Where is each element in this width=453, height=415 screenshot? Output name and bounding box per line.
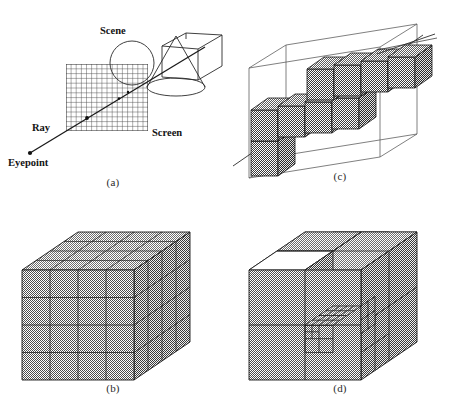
voxel-group-upper <box>307 45 432 100</box>
sphere-hit-dot <box>118 97 120 99</box>
panel-a-caption: (a) <box>0 176 226 188</box>
panel-d-octree-subdivision: (d) <box>227 200 453 415</box>
label-eyepoint: Eyepoint <box>8 157 49 168</box>
scene-box <box>162 33 222 80</box>
sphere-entry-dot <box>127 91 129 93</box>
label-scene: Scene <box>100 25 126 36</box>
panel-b-uniform-grid: (b) <box>0 200 226 415</box>
label-ray: Ray <box>32 122 51 133</box>
figure-raytracing-subdivision: Scene Screen Ray Eyepoint (a) <box>0 0 453 415</box>
panel-c-voxel-traversal: (c) <box>227 0 453 200</box>
scene-cone <box>147 36 205 96</box>
cube-front-face <box>22 270 134 380</box>
panel-a-ray-through-screen: Scene Screen Ray Eyepoint (a) <box>0 0 226 200</box>
panel-d-caption: (d) <box>227 382 453 394</box>
panel-b-caption: (b) <box>0 382 226 394</box>
pixel-hit-dot <box>85 116 89 120</box>
panel-c-caption: (c) <box>227 170 453 182</box>
label-screen: Screen <box>152 127 182 138</box>
screen-pixel-grid <box>66 64 148 131</box>
eyepoint-dot <box>28 151 32 155</box>
